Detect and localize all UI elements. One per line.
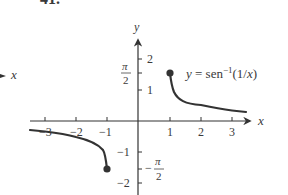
y-tick-label: 2 xyxy=(147,52,153,66)
y-tick-label: 1 xyxy=(147,83,153,97)
x-axis-label: x xyxy=(257,113,264,128)
endpoint-dot-right xyxy=(166,69,173,76)
function-label: y = sen−1(1/x) xyxy=(184,65,257,81)
arrow-icon xyxy=(0,74,6,78)
svg-text:−: − xyxy=(145,161,152,175)
y-tick-label: −2 xyxy=(117,176,130,190)
x-tick-label: 2 xyxy=(198,125,204,139)
svg-text:2: 2 xyxy=(156,170,162,182)
graph-canvas: 41. x x −3 −2 −1 1 2 3 y xyxy=(0,0,288,195)
problem-number: 41. xyxy=(40,0,60,7)
left-fragment-x-label: x xyxy=(10,67,17,82)
x-tick-label: 3 xyxy=(229,125,235,139)
y-label-pi-over-2: π 2 xyxy=(121,60,131,86)
left-fragment-axis: x xyxy=(0,67,17,82)
y-label-neg-pi-over-2: − π 2 xyxy=(145,155,164,182)
svg-text:π: π xyxy=(122,60,128,72)
svg-text:π: π xyxy=(155,155,161,167)
endpoint-dot-left xyxy=(103,165,110,172)
y-axis-label: y xyxy=(133,20,140,34)
x-tick-label: 1 xyxy=(167,125,173,139)
svg-text:2: 2 xyxy=(123,74,129,86)
x-tick-label: −1 xyxy=(99,125,112,139)
y-axis: y 2 1 −1 −2 π 2 − π 2 xyxy=(117,20,164,195)
y-tick-label: −1 xyxy=(117,145,130,159)
